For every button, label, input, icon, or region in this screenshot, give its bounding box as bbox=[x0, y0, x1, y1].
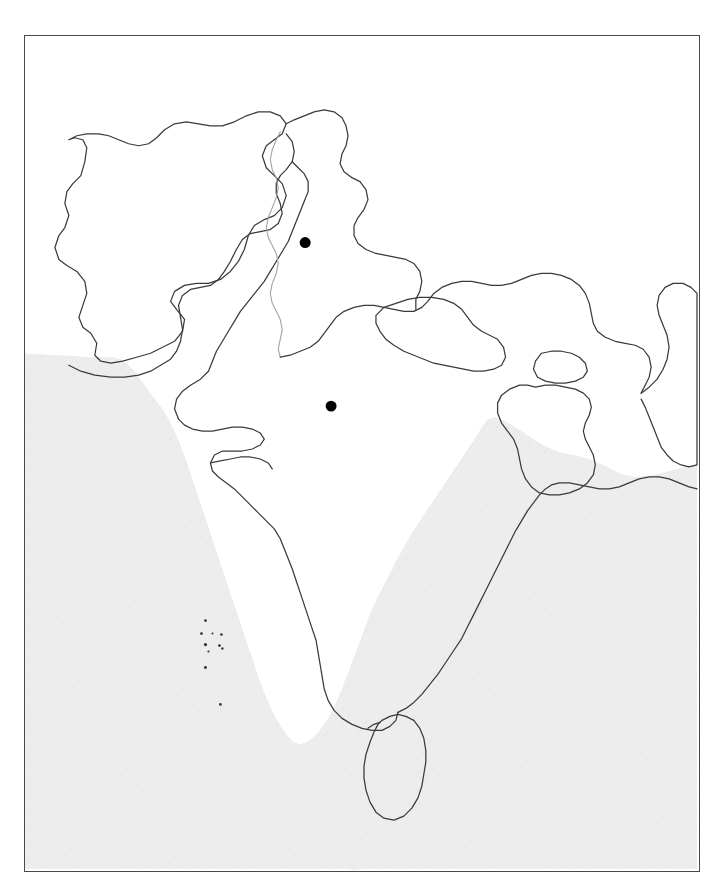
island-dot bbox=[220, 633, 223, 636]
island-dot bbox=[219, 703, 222, 706]
map-canvas bbox=[25, 36, 699, 871]
island-dot bbox=[204, 643, 207, 646]
island-dot bbox=[218, 644, 221, 647]
island-dot bbox=[211, 633, 213, 635]
city-marker-central bbox=[326, 401, 337, 412]
island-dot bbox=[221, 647, 223, 649]
island-dot bbox=[200, 632, 203, 635]
page-root bbox=[0, 0, 720, 888]
island-dot bbox=[204, 619, 207, 622]
page-title bbox=[0, 0, 720, 1]
island-dot bbox=[204, 666, 207, 669]
city-marker-north bbox=[300, 237, 311, 248]
island-dot bbox=[207, 650, 209, 652]
map-frame bbox=[24, 35, 700, 872]
